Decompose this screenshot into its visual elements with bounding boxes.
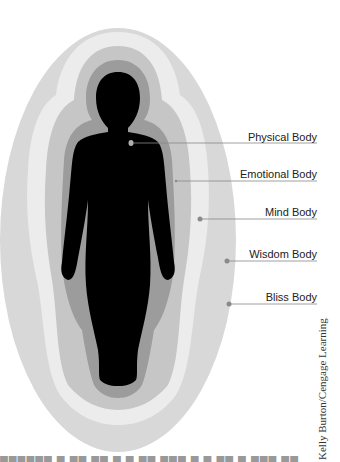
five-bodies-diagram	[0, 0, 340, 462]
dot-bliss	[227, 302, 232, 307]
image-credit: Kelly Burton/Cengage Learning	[316, 320, 328, 460]
label-emotional-body: Emotional Body	[240, 168, 317, 180]
dot-physical	[129, 140, 134, 146]
label-wisdom-body: Wisdom Body	[249, 248, 317, 260]
label-bliss-body: Bliss Body	[266, 291, 317, 303]
label-mind-body: Mind Body	[265, 206, 317, 218]
dot-mind	[198, 217, 203, 222]
dot-wisdom	[225, 259, 230, 264]
cut-off-caption-fragment: ▀▀▀▀▀▀ ▀ ▀▀ ▀▀ ▀ ▀ ▀▀ ▀▀▀ ▀ ▀ ▀▀ ▀ ▀▀▀ ▀…	[0, 456, 312, 462]
label-physical-body: Physical Body	[248, 131, 317, 143]
dot-emotional	[175, 180, 177, 182]
